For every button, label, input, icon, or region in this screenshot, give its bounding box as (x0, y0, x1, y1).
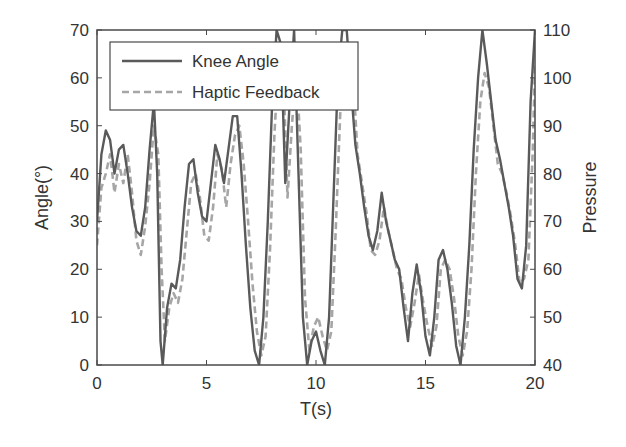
x-tick-label: 5 (202, 374, 211, 393)
y-tick-label-left: 20 (70, 260, 89, 279)
legend-label-haptic-feedback: Haptic Feedback (192, 83, 320, 102)
y-tick-label-right: 100 (543, 69, 571, 88)
y-tick-label-right: 90 (543, 117, 562, 136)
y-tick-label-left: 10 (70, 308, 89, 327)
y-tick-label-left: 40 (70, 165, 89, 184)
y-tick-label-right: 40 (543, 356, 562, 375)
legend: Knee Angle Haptic Feedback (110, 42, 358, 110)
y-tick-label-right: 60 (543, 260, 562, 279)
chart: 0510152001020304050607040506070809010011… (0, 0, 626, 447)
y-tick-label-right: 50 (543, 308, 562, 327)
y-tick-label-left: 60 (70, 69, 89, 88)
x-axis-label: T(s) (300, 399, 332, 419)
y-axis-label-left: Angle(°) (32, 165, 52, 230)
y-tick-label-left: 50 (70, 117, 89, 136)
legend-label-knee-angle: Knee Angle (192, 52, 279, 71)
x-tick-label: 15 (416, 374, 435, 393)
y-tick-label-right: 110 (543, 21, 570, 40)
y-tick-label-left: 0 (80, 356, 89, 375)
x-tick-label: 0 (92, 374, 101, 393)
y-tick-label-right: 80 (543, 165, 562, 184)
y-tick-label-left: 30 (70, 212, 89, 231)
y-tick-label-left: 70 (70, 21, 89, 40)
y-axis-label-right: Pressure (580, 161, 600, 233)
y-tick-label-right: 70 (543, 212, 562, 231)
x-tick-label: 20 (526, 374, 545, 393)
x-tick-label: 10 (307, 374, 326, 393)
